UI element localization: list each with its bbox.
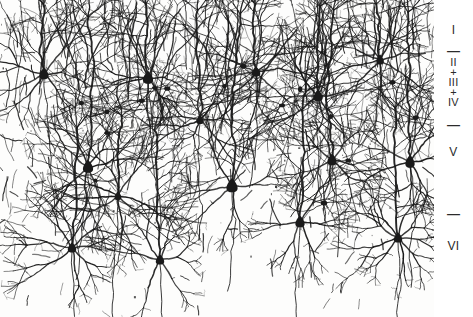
interneuron-soma bbox=[279, 104, 285, 108]
interneuron-soma bbox=[79, 101, 84, 105]
layer-key-layer-i: I bbox=[434, 24, 473, 36]
interneuron-soma bbox=[164, 86, 170, 91]
layer-key-layer-v: V bbox=[434, 146, 473, 158]
layer-key-layer-vi: VI bbox=[434, 240, 473, 252]
interneuron-soma bbox=[321, 201, 328, 206]
neuron-drawing bbox=[0, 0, 434, 317]
cortical-golgi-figure: I—II+III+IV—V—VI bbox=[0, 0, 473, 317]
interneuron-soma bbox=[329, 114, 333, 119]
layer-key-rule-v-vi: — bbox=[434, 207, 473, 220]
layer-key-rule-iv-v: — bbox=[434, 118, 473, 131]
histology-plate bbox=[0, 0, 434, 317]
interneuron-soma bbox=[298, 86, 302, 92]
interneuron-soma bbox=[345, 158, 351, 162]
layer-key-layer-ii-iv: II+III+IV bbox=[434, 57, 473, 107]
interneuron-soma bbox=[413, 116, 419, 120]
interneuron-soma bbox=[390, 80, 396, 84]
cortical-layer-key: I—II+III+IV—V—VI bbox=[434, 0, 473, 317]
interneuron-soma bbox=[94, 179, 98, 183]
interneuron-soma bbox=[222, 84, 227, 88]
